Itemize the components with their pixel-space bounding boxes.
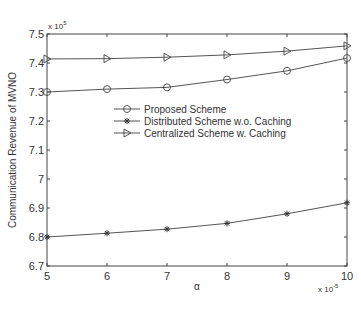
series-line	[47, 58, 347, 92]
y-tick-label: 6.7	[29, 260, 44, 272]
series-star	[44, 200, 350, 240]
star-marker	[124, 118, 130, 124]
axes: 56789106.76.86.977.17.27.37.47.5	[29, 28, 353, 282]
series-line	[47, 46, 347, 59]
star-marker	[164, 226, 170, 232]
x-tick-label: 5	[44, 270, 50, 282]
y-tick-label: 7.5	[29, 28, 44, 40]
legend-item: Centralized Scheme w. Caching	[114, 128, 286, 139]
x-tick-label: 6	[104, 270, 110, 282]
line-chart: 56789106.76.86.977.17.27.37.47.5 Propose…	[0, 0, 361, 309]
y-tick-label: 6.9	[29, 202, 44, 214]
series-circle	[44, 55, 351, 96]
star-marker	[344, 200, 350, 206]
legend-label: Centralized Scheme w. Caching	[144, 128, 286, 139]
y-tick-label: 7.3	[29, 86, 44, 98]
y-axis-label: Communication Revenue of MVNO	[7, 72, 18, 228]
y-multiplier: x 105	[48, 20, 67, 31]
y-tick-label: 7.4	[29, 57, 44, 69]
legend-item: Proposed Scheme	[114, 104, 227, 115]
star-marker	[104, 230, 110, 236]
star-marker	[284, 211, 290, 217]
y-tick-label: 7	[38, 173, 44, 185]
y-tick-label: 6.8	[29, 231, 44, 243]
legend-label: Distributed Scheme w.o. Caching	[144, 116, 291, 127]
x-axis-label: α	[194, 281, 200, 292]
x-tick-label: 10	[341, 270, 353, 282]
legend-item: Distributed Scheme w.o. Caching	[114, 116, 291, 127]
x-tick-label: 9	[284, 270, 290, 282]
x-tick-label: 8	[224, 270, 230, 282]
plot-frame	[47, 34, 347, 266]
legend: Proposed SchemeDistributed Scheme w.o. C…	[114, 104, 291, 139]
x-multiplier: x 10-5	[318, 283, 339, 294]
series-group	[44, 42, 352, 240]
series-triangle-right	[44, 42, 351, 63]
y-tick-label: 7.1	[29, 144, 44, 156]
star-marker	[44, 234, 50, 240]
y-tick-label: 7.2	[29, 115, 44, 127]
series-line	[47, 203, 347, 237]
star-marker	[224, 220, 230, 226]
legend-label: Proposed Scheme	[144, 104, 227, 115]
x-tick-label: 7	[164, 270, 170, 282]
